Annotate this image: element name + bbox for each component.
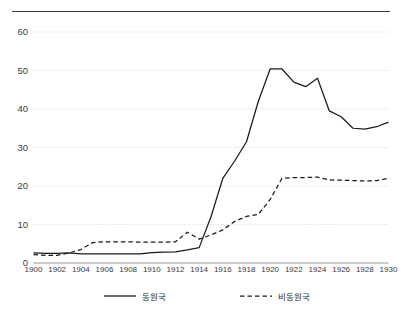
y-tick-label: 30	[8, 143, 28, 153]
y-tick-label: 10	[8, 220, 28, 230]
legend-swatch-dashed-icon	[240, 292, 272, 300]
x-tick-label: 1904	[68, 266, 94, 274]
x-tick-label: 1910	[139, 266, 165, 274]
chart-figure: 0102030405060 19001902190419061908191019…	[0, 0, 401, 318]
y-tick-label: 60	[8, 27, 28, 37]
gridlines-group	[34, 32, 389, 225]
x-tick-label: 1902	[44, 266, 70, 274]
x-tick-label: 1926	[328, 266, 354, 274]
series-line-1	[34, 69, 389, 254]
x-tick-label: 1914	[186, 266, 212, 274]
x-tick-label: 1922	[281, 266, 307, 274]
x-tick-label: 1920	[257, 266, 283, 274]
x-tick-label: 1916	[210, 266, 236, 274]
x-tick-label: 1928	[352, 266, 378, 274]
x-tick-label: 1912	[163, 266, 189, 274]
x-tick-label: 1924	[305, 266, 331, 274]
x-tick-label: 1900	[21, 266, 47, 274]
legend-label: 동원국	[142, 290, 166, 302]
y-tick-label: 50	[8, 66, 28, 76]
x-tick-label: 1906	[92, 266, 118, 274]
chart-legend: 동원국비동원국	[0, 289, 401, 309]
legend-label: 비동원국	[278, 290, 310, 302]
y-tick-label: 40	[8, 104, 28, 114]
x-tick-label: 1908	[115, 266, 141, 274]
legend-entry-1[interactable]: 동원국	[104, 289, 166, 303]
legend-swatch-solid-icon	[104, 292, 136, 300]
legend-entry-2[interactable]: 비동원국	[240, 289, 310, 303]
y-tick-label: 20	[8, 181, 28, 191]
x-tick-label: 1930	[376, 266, 401, 274]
series-paths-group	[34, 69, 389, 255]
x-tick-label: 1918	[234, 266, 260, 274]
